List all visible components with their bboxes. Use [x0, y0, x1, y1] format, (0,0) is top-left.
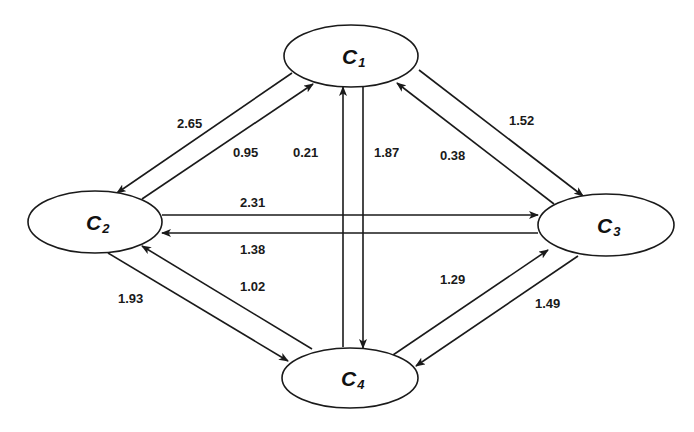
node-subscript: 1: [358, 55, 365, 70]
edge-c1-to-c3-arrow: [419, 70, 583, 196]
edge-weight-c3-c2: 1.38: [240, 242, 265, 257]
edge-c4-to-c3-arrow: [393, 250, 548, 355]
node-c1: C1: [284, 25, 418, 87]
edge-weight-c3-c1: 0.38: [440, 148, 465, 163]
edge-c1-to-c2-arrow: [117, 73, 292, 193]
edge-weight-c2-c1: 0.95: [233, 145, 258, 160]
node-c4: C4: [282, 348, 418, 408]
edge-weight-c2-c4: 1.93: [118, 291, 143, 306]
node-c3: C3: [538, 194, 674, 256]
edge-c3-to-c1-arrow: [397, 83, 554, 204]
edge-c2-to-c4-arrow: [108, 253, 288, 361]
node-letter: C: [342, 45, 358, 68]
edge-weight-c3-c4: 1.49: [535, 296, 560, 311]
node-letter: C: [86, 211, 102, 234]
edge-weight-c1-c2: 2.65: [177, 116, 202, 131]
edge-labels-layer: 2.650.950.211.871.520.382.311.381.931.02…: [118, 113, 560, 311]
node-letter: C: [597, 214, 613, 237]
node-subscript: 4: [356, 377, 365, 392]
node-c2: C2: [28, 191, 162, 253]
nodes-layer: C1C2C3C4: [28, 25, 674, 408]
edge-weight-c4-c1: 0.21: [293, 145, 318, 160]
transition-graph: C1C2C3C4 2.650.950.211.871.520.382.311.3…: [0, 0, 694, 432]
edge-weight-c1-c3: 1.52: [509, 113, 534, 128]
edge-weight-c2-c3: 2.31: [240, 195, 265, 210]
edge-weight-c4-c2: 1.02: [240, 279, 265, 294]
edge-c4-to-c2-arrow: [142, 246, 312, 349]
edge-weight-c4-c3: 1.29: [440, 272, 465, 287]
node-letter: C: [341, 367, 357, 390]
edge-weight-c1-c4: 1.87: [374, 145, 399, 160]
node-subscript: 3: [613, 224, 621, 239]
edge-c2-to-c1-arrow: [142, 84, 313, 199]
node-subscript: 2: [101, 221, 110, 236]
